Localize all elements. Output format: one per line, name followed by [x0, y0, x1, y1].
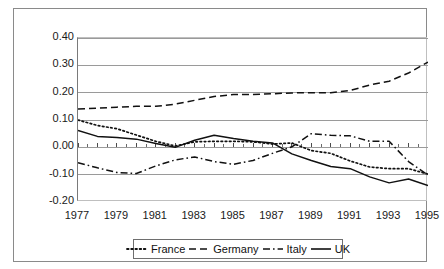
- solid-line-swatch: [310, 245, 332, 253]
- chart-legend: FranceGermanyItalyUK: [133, 239, 343, 259]
- x-axis-tick-label: 1993: [371, 209, 405, 221]
- y-axis-tick-label: 0.30: [28, 58, 74, 69]
- x-axis-tick-label: 1983: [177, 209, 211, 221]
- x-axis-tick-label: 1977: [60, 209, 94, 221]
- chart-frame: 0.400.300.200.100.00-0.10-0.20 197719791…: [13, 8, 427, 262]
- x-axis-tick-label: 1981: [138, 209, 172, 221]
- series-line-uk: [78, 130, 428, 185]
- legend-item-italy[interactable]: Italy: [262, 244, 307, 255]
- y-axis-tick-label: -0.10: [28, 168, 74, 179]
- x-axis-tick-label: 1987: [254, 209, 288, 221]
- series-line-germany: [78, 62, 428, 109]
- x-axis-tick-label: 1991: [332, 209, 366, 221]
- legend-item-germany[interactable]: Germany: [188, 244, 258, 255]
- y-axis-tick-label: 0.10: [28, 113, 74, 124]
- dashed-line-swatch: [188, 245, 210, 253]
- x-axis-tick-label: 1985: [216, 209, 250, 221]
- y-axis-tick-label: 0.40: [28, 31, 74, 42]
- y-axis-tick-label: 0.20: [28, 86, 74, 97]
- x-axis-tick-label: 1995: [410, 209, 444, 221]
- x-axis-label-group: 1977197919811983198519871989199119931995: [64, 209, 440, 225]
- legend-label: Germany: [213, 244, 258, 255]
- legend-label: UK: [335, 244, 350, 255]
- dotted-line-swatch: [126, 245, 148, 253]
- y-axis-tick-label: -0.20: [28, 195, 74, 206]
- plot-area: [77, 37, 427, 201]
- legend-label: Italy: [287, 244, 307, 255]
- series-line-italy: [78, 134, 428, 176]
- x-axis-tick-label: 1989: [293, 209, 327, 221]
- legend-item-france[interactable]: France: [126, 244, 185, 255]
- x-axis-tick-label: 1979: [99, 209, 133, 221]
- series-canvas: [78, 38, 428, 202]
- legend-label: France: [151, 244, 185, 255]
- legend-item-uk[interactable]: UK: [310, 244, 350, 255]
- y-axis-tick-label: 0.00: [28, 140, 74, 151]
- dash-dot-line-swatch: [262, 245, 284, 253]
